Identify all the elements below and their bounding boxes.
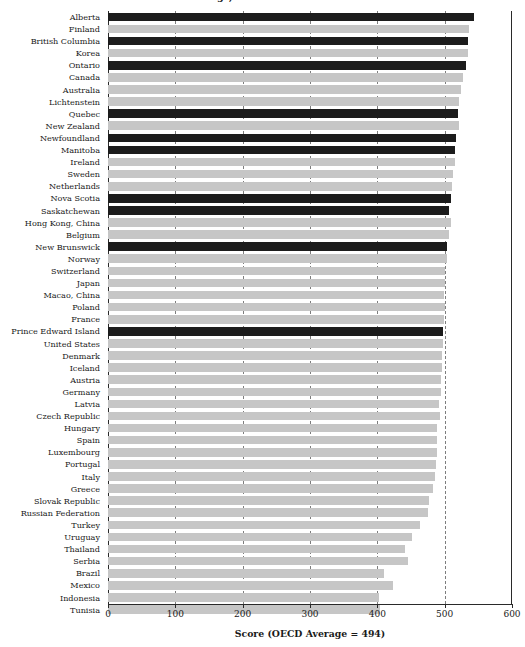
x-tick — [243, 604, 244, 608]
bar-row — [108, 386, 512, 398]
category-label: Sweden — [0, 168, 104, 180]
category-label: Newfoundland — [0, 132, 104, 144]
category-label: Hungary — [0, 422, 104, 434]
category-label: New Brunswick — [0, 241, 104, 253]
bar — [108, 569, 384, 578]
category-label: Switzerland — [0, 265, 104, 277]
category-label: Greece — [0, 483, 104, 495]
bar-row — [108, 579, 512, 591]
category-label: Italy — [0, 471, 104, 483]
category-label: New Zealand — [0, 120, 104, 132]
bar — [108, 351, 442, 360]
bar — [108, 496, 429, 505]
category-label: Denmark — [0, 350, 104, 362]
category-label: Luxembourg — [0, 446, 104, 458]
plot-area — [108, 11, 512, 604]
bar-row — [108, 507, 512, 519]
bar-row — [108, 156, 512, 168]
category-label: Korea — [0, 47, 104, 59]
bar-row — [108, 229, 512, 241]
bar-row — [108, 192, 512, 204]
bar-row — [108, 567, 512, 579]
bar — [108, 182, 452, 191]
bar — [108, 593, 379, 602]
bar — [108, 400, 439, 409]
category-label: Quebec — [0, 108, 104, 120]
bar-row — [108, 71, 512, 83]
bar-row — [108, 338, 512, 350]
bar-row — [108, 398, 512, 410]
bar-row — [108, 325, 512, 337]
bar-row — [108, 253, 512, 265]
horizontal-bar-chart: PISA 2012 Science Performance Rankings, … — [0, 0, 525, 647]
bar — [108, 61, 466, 70]
bar — [108, 109, 458, 118]
bar — [108, 339, 443, 348]
bar-series — [108, 11, 512, 604]
category-label: Turkey — [0, 519, 104, 531]
bar — [108, 230, 449, 239]
bar-row — [108, 132, 512, 144]
category-label: Ireland — [0, 156, 104, 168]
bar-row — [108, 180, 512, 192]
bar-row — [108, 495, 512, 507]
bar — [108, 412, 440, 421]
bar-row — [108, 313, 512, 325]
x-axis-title: Score (OECD Average = 494) — [108, 628, 512, 639]
x-tick-label: 600 — [482, 609, 525, 619]
x-tick-label: 500 — [415, 609, 475, 619]
bar-row — [108, 47, 512, 59]
category-label: Serbia — [0, 555, 104, 567]
bar — [108, 375, 441, 384]
bar-row — [108, 446, 512, 458]
bar-row — [108, 410, 512, 422]
category-label: Nova Scotia — [0, 192, 104, 204]
category-label: Slovak Republic — [0, 495, 104, 507]
bar-row — [108, 241, 512, 253]
category-label: Portugal — [0, 458, 104, 470]
x-tick-label: 400 — [347, 609, 407, 619]
bar-row — [108, 350, 512, 362]
category-label: Czech Republic — [0, 410, 104, 422]
x-tick — [310, 604, 311, 608]
bar — [108, 388, 441, 397]
category-label: Australia — [0, 84, 104, 96]
bar — [108, 581, 393, 590]
bar — [108, 545, 405, 554]
category-label: Uruguay — [0, 531, 104, 543]
bar-row — [108, 35, 512, 47]
category-label: Brazil — [0, 567, 104, 579]
bar-row — [108, 23, 512, 35]
bar — [108, 448, 437, 457]
bar-row — [108, 120, 512, 132]
bar-row — [108, 11, 512, 23]
category-label: Prince Edward Island — [0, 325, 104, 337]
bar — [108, 521, 420, 530]
bar — [108, 73, 463, 82]
bar-row — [108, 422, 512, 434]
category-label: France — [0, 313, 104, 325]
bar-row — [108, 434, 512, 446]
x-tick — [445, 604, 446, 608]
bar — [108, 146, 455, 155]
bar-row — [108, 289, 512, 301]
bar-row — [108, 205, 512, 217]
category-axis-labels: AlbertaFinlandBritish ColumbiaKoreaOntar… — [0, 11, 104, 616]
category-label: Lichtenstein — [0, 96, 104, 108]
x-tick-label: 0 — [78, 609, 138, 619]
bar-row — [108, 374, 512, 386]
bar — [108, 13, 474, 22]
category-label: United States — [0, 338, 104, 350]
bar-row — [108, 84, 512, 96]
bar — [108, 557, 408, 566]
bar-row — [108, 543, 512, 555]
bar — [108, 134, 456, 143]
bar-row — [108, 144, 512, 156]
bar-row — [108, 108, 512, 120]
bar — [108, 97, 459, 106]
x-tick — [175, 604, 176, 608]
category-label: Indonesia — [0, 592, 104, 604]
bar-row — [108, 471, 512, 483]
bar — [108, 533, 412, 542]
category-label: Spain — [0, 434, 104, 446]
